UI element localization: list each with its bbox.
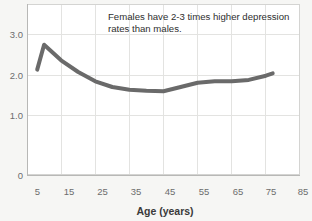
x-axis-tick-labels: 5 15 25 35 45 55 65 75 85 — [35, 186, 308, 197]
x-tick-label-5: 5 — [35, 186, 40, 197]
chart-canvas: 3.0 2.0 1.0 0 5 15 25 35 45 55 65 75 85 … — [0, 0, 312, 221]
x-tick-label-85: 85 — [298, 186, 309, 197]
x-tick-label-45: 45 — [165, 186, 176, 197]
x-tick-label-65: 65 — [233, 186, 244, 197]
annotation-line-1: Females have 2-3 times higher depression — [108, 11, 289, 22]
x-tick-label-15: 15 — [64, 186, 75, 197]
y-tick-label-2: 2.0 — [10, 70, 23, 81]
y-tick-label-0: 0 — [18, 170, 23, 181]
depression-rate-ratio-chart: 3.0 2.0 1.0 0 5 15 25 35 45 55 65 75 85 … — [0, 0, 312, 221]
x-tick-label-25: 25 — [97, 186, 108, 197]
y-axis-tick-labels: 3.0 2.0 1.0 0 — [10, 29, 23, 181]
y-tick-label-1: 1.0 — [10, 110, 23, 121]
x-tick-label-55: 55 — [199, 186, 210, 197]
y-tick-label-3: 3.0 — [10, 29, 23, 40]
x-axis-title: Age (years) — [136, 205, 193, 217]
annotation-line-2: rates than males. — [108, 23, 182, 34]
x-tick-label-75: 75 — [266, 186, 277, 197]
x-tick-label-35: 35 — [131, 186, 142, 197]
